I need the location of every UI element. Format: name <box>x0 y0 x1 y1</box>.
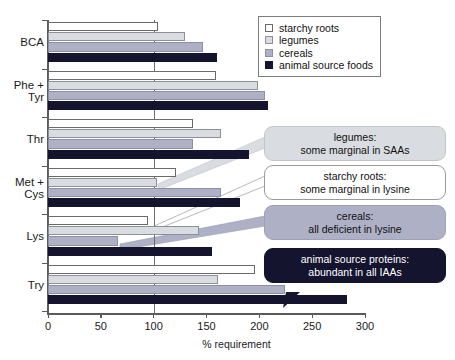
legend-label-legumes: legumes <box>279 34 319 46</box>
legend-swatch-icon-starchy-roots <box>265 24 273 32</box>
callout-starchy-roots: starchy roots: some marginal in lysine <box>264 165 446 200</box>
callout-animal-line2: abundant in all IAAs <box>273 266 437 279</box>
chart-root: 050100150200250300 BCAPhe +TyrThrMet +Cy… <box>0 0 455 360</box>
bar-Try-cereals <box>48 285 285 294</box>
category-label-PheTyr: Phe +Tyr <box>0 78 44 103</box>
bar-Try-animal-source-foods <box>48 295 347 304</box>
bar-BCA-cereals <box>48 42 203 51</box>
x-tick-label-300: 300 <box>356 320 374 332</box>
legend-label-cereals: cereals <box>279 47 313 59</box>
bar-MetCys-starchy-roots <box>48 168 176 177</box>
bar-Try-legumes <box>48 275 218 284</box>
callout-animal-line1: animal source proteins: <box>273 253 437 266</box>
x-tick-label-50: 50 <box>95 320 107 332</box>
bar-Lys-starchy-roots <box>48 216 148 225</box>
legend-item-legumes: legumes <box>265 34 373 46</box>
legend-item-starchy-roots: starchy roots <box>265 22 373 34</box>
category-label-BCA: BCA <box>0 36 44 49</box>
bar-Thr-cereals <box>48 139 193 148</box>
category-label-line: Phe + <box>0 78 44 91</box>
bar-PheTyr-legumes <box>48 81 258 90</box>
x-tick-100 <box>153 313 154 318</box>
bar-BCA-animal-source-foods <box>48 53 217 62</box>
category-label-line: Lys <box>0 230 44 243</box>
bar-Thr-animal-source-foods <box>48 150 249 159</box>
bar-BCA-legumes <box>48 32 185 41</box>
category-label-line: Try <box>0 279 44 292</box>
x-tick-label-200: 200 <box>250 320 268 332</box>
callout-starchy-roots-line1: starchy roots: <box>273 170 437 183</box>
x-tick-label-150: 150 <box>197 320 215 332</box>
legend-swatch-icon-legumes <box>265 36 273 44</box>
bar-MetCys-cereals <box>48 188 221 197</box>
category-label-line: BCA <box>0 36 44 49</box>
callout-cereals-line1: cereals: <box>273 210 437 223</box>
category-label-Thr: Thr <box>0 133 44 146</box>
category-label-Try: Try <box>0 279 44 292</box>
x-tick-0 <box>48 313 49 318</box>
callout-legumes-line2: some marginal in SAAs <box>273 144 437 157</box>
bar-PheTyr-animal-source-foods <box>48 101 268 110</box>
category-label-line: Thr <box>0 133 44 146</box>
legend-item-cereals: cereals <box>265 47 373 59</box>
category-label-line: Tyr <box>0 91 44 104</box>
y-axis-category-labels: BCAPhe +TyrThrMet +CysLysTry <box>0 0 44 360</box>
x-tick-250 <box>312 313 313 318</box>
x-tick-label-0: 0 <box>45 320 51 332</box>
bar-PheTyr-starchy-roots <box>48 71 216 80</box>
callout-starchy-roots-line2: some marginal in lysine <box>273 183 437 196</box>
x-tick-label-250: 250 <box>303 320 321 332</box>
x-tick-150 <box>206 313 207 318</box>
bar-Lys-cereals <box>48 236 118 245</box>
legend-swatch-icon-animal-source-foods <box>265 61 273 69</box>
bar-MetCys-legumes <box>48 178 157 187</box>
bar-BCA-starchy-roots <box>48 22 158 31</box>
bar-Thr-legumes <box>48 129 221 138</box>
legend-swatch-icon-cereals <box>265 49 273 57</box>
chart-legend: starchy roots legumes cereals animal sou… <box>258 16 381 77</box>
x-tick-50 <box>100 313 101 318</box>
callout-legumes: legumes: some marginal in SAAs <box>264 126 446 161</box>
bar-Thr-starchy-roots <box>48 119 193 128</box>
x-tick-label-100: 100 <box>144 320 162 332</box>
bar-Lys-legumes <box>48 226 199 235</box>
category-label-MetCys: Met +Cys <box>0 175 44 200</box>
category-label-Lys: Lys <box>0 230 44 243</box>
callout-cereals-line2: all deficient in lysine <box>273 223 437 236</box>
category-label-line: Cys <box>0 188 44 201</box>
callout-cereals: cereals: all deficient in lysine <box>264 205 446 240</box>
bar-Try-starchy-roots <box>48 265 255 274</box>
x-axis-title: % requirement <box>0 338 455 350</box>
x-tick-200 <box>259 313 260 318</box>
bar-PheTyr-cereals <box>48 91 265 100</box>
x-axis-title-text: % requirement <box>184 338 270 350</box>
callout-legumes-line1: legumes: <box>273 131 437 144</box>
legend-label-animal-source-foods: animal source foods <box>279 59 373 71</box>
bar-MetCys-animal-source-foods <box>48 198 240 207</box>
legend-label-starchy-roots: starchy roots <box>279 22 339 34</box>
x-tick-300 <box>365 313 366 318</box>
legend-item-animal-source-foods: animal source foods <box>265 59 373 71</box>
callout-animal-source-proteins: animal source proteins: abundant in all … <box>264 248 446 283</box>
bar-Lys-animal-source-foods <box>48 247 212 256</box>
category-label-line: Met + <box>0 175 44 188</box>
